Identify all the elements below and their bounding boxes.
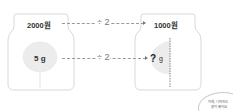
right-weight-unit: g	[159, 55, 163, 62]
right-jar: 1000원 ? g	[132, 0, 212, 100]
jar-outline-icon	[132, 0, 212, 100]
top-arrowhead-icon	[143, 21, 146, 25]
right-price-label: 1000원	[154, 19, 178, 30]
bottom-operation-label: ÷ 2	[96, 52, 110, 62]
left-weight-label: 5 g	[34, 54, 46, 63]
top-operation-label: ÷ 2	[96, 17, 110, 27]
speech-bubble-text: 어제, 나머지도 같이 왔어요	[208, 100, 228, 110]
left-price-label: 2000원	[27, 19, 51, 30]
speech-bubble-line2: 같이 왔어요	[208, 105, 228, 110]
bottom-arrowhead-icon	[145, 56, 148, 60]
left-jar: 2000원 5 g	[0, 0, 80, 100]
right-weight-unknown: ?	[150, 53, 156, 64]
jar-outline-icon	[0, 0, 80, 100]
